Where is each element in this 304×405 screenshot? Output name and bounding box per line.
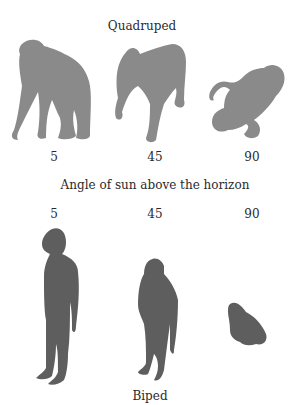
biped-shadow-90deg: [228, 303, 267, 346]
quadruped-angle-45: 45: [147, 150, 162, 164]
axis-caption: Angle of sun above the horizon: [61, 178, 250, 192]
biped-title: Biped: [132, 389, 167, 403]
biped-shadow-45deg: [138, 258, 178, 380]
quadruped-shadow-90deg: [209, 65, 284, 138]
quadruped-angle-5: 5: [50, 150, 58, 164]
biped-shadows: [36, 228, 267, 385]
biped-angle-5: 5: [50, 207, 58, 221]
quadruped-shadow-45deg: [115, 44, 186, 142]
biped-angle-90: 90: [244, 207, 259, 221]
silhouette-figures: [0, 0, 304, 405]
quadruped-shadow-5deg: [12, 40, 91, 140]
quadruped-shadows: [12, 40, 285, 142]
biped-shadow-5deg: [36, 228, 79, 385]
biped-angle-45: 45: [147, 207, 162, 221]
quadruped-angle-90: 90: [244, 150, 259, 164]
